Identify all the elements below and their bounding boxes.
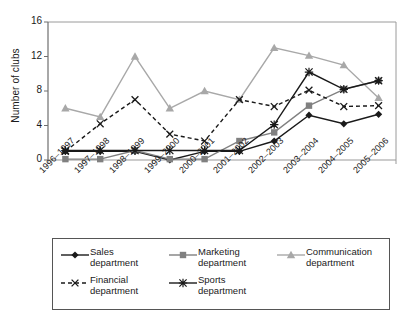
marker-asterisk [340,85,348,93]
marker-square [180,252,186,258]
marker-diamond [375,111,382,118]
legend-label-line1-4: Sports [198,274,246,285]
chart-legend: SalesdepartmentMarketingdepartmentCommun… [52,238,390,310]
marker-asterisk [179,279,187,287]
legend-swatch-square-icon [168,247,198,259]
legend-label-3: Financialdepartment [90,274,138,296]
marker-asterisk [374,76,382,84]
legend-label-line1-3: Financial [90,274,138,285]
marker-square [167,156,173,162]
legend-label-line2-2: department [306,257,372,268]
marker-x [271,103,278,110]
legend-label-line1-1: Marketing [198,246,246,257]
legend-item-3[interactable]: Financialdepartment [60,274,168,296]
marker-x [306,87,313,94]
legend-swatch-triangle-icon [276,247,306,259]
marker-triangle [131,52,139,59]
chart-figure: Number of clubs 0481216 1996–19971997–19… [0,0,412,317]
legend-label-line2-4: department [198,285,246,296]
series-line-2 [65,48,378,117]
marker-asterisk [270,120,278,128]
marker-diamond [340,120,347,127]
plot-region: Number of clubs 0481216 1996–19971997–19… [0,0,412,232]
marker-square [271,129,277,135]
legend-label-line1-2: Communication [306,246,372,257]
legend-item-1[interactable]: Marketingdepartment [168,246,276,268]
marker-triangle [61,104,69,111]
series-2 [61,44,383,120]
legend-label-2: Communicationdepartment [306,246,372,268]
legend-item-4[interactable]: Sportsdepartment [168,274,276,296]
line-chart-svg [0,0,412,232]
marker-square [97,156,103,162]
legend-label-line1-0: Sales [90,246,138,257]
legend-label-line2-3: department [90,285,138,296]
legend-swatch-asterisk-icon [168,275,198,287]
legend-label-4: Sportsdepartment [198,274,246,296]
legend-swatch-x-icon [60,275,90,287]
marker-x [340,103,347,110]
marker-square [306,102,312,108]
marker-x [375,102,382,109]
legend-label-1: Marketingdepartment [198,246,246,268]
marker-x [97,120,104,127]
legend-label-0: Salesdepartment [90,246,138,268]
legend-item-0[interactable]: Salesdepartment [60,246,168,268]
legend-label-line2-0: department [90,257,138,268]
series-line-4 [65,72,378,151]
marker-square [201,156,207,162]
marker-asterisk [305,68,313,76]
marker-x [132,96,139,103]
marker-square [62,156,68,162]
marker-triangle [200,87,208,94]
legend-swatch-diamond-icon [60,247,90,259]
legend-item-2[interactable]: Communicationdepartment [276,246,384,268]
legend-items: SalesdepartmentMarketingdepartmentCommun… [60,246,386,302]
marker-triangle [270,44,278,51]
marker-diamond [71,251,78,258]
legend-label-line2-1: department [198,257,246,268]
